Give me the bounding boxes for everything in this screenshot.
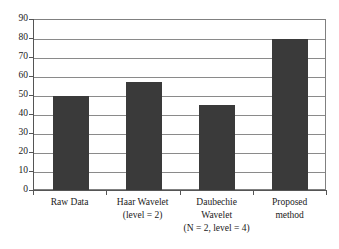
x-tick-mark-0 bbox=[33, 190, 34, 195]
y-tick-mark-40 bbox=[29, 114, 34, 115]
x-category-label-2-line-2: (N = 2, level = 4) bbox=[170, 222, 263, 235]
bar-chart: 0102030405060708090 Raw DataHaar Wavelet… bbox=[0, 0, 339, 249]
y-tick-label-20: 20 bbox=[19, 147, 29, 157]
x-tick-mark-3 bbox=[253, 190, 254, 195]
bars-layer bbox=[34, 20, 327, 191]
x-category-label-3-line-1: method bbox=[243, 209, 336, 222]
x-category-label-0-line-0: Raw Data bbox=[51, 197, 89, 207]
bar-3 bbox=[272, 39, 308, 191]
y-tick-label-50: 50 bbox=[19, 90, 29, 100]
x-tick-mark-4 bbox=[326, 190, 327, 195]
y-tick-label-80: 80 bbox=[19, 33, 29, 43]
y-tick-label-10: 10 bbox=[19, 166, 29, 176]
y-tick-mark-10 bbox=[29, 171, 34, 172]
x-category-label-3: Proposedmethod bbox=[243, 196, 336, 222]
x-category-label-1-line-0: Haar Wavelet bbox=[117, 197, 169, 207]
bar-2 bbox=[199, 105, 235, 191]
plot-area bbox=[33, 19, 326, 190]
y-tick-label-90: 90 bbox=[19, 14, 29, 24]
x-tick-mark-1 bbox=[106, 190, 107, 195]
y-tick-mark-60 bbox=[29, 76, 34, 77]
y-tick-label-60: 60 bbox=[19, 71, 29, 81]
x-tick-mark-2 bbox=[180, 190, 181, 195]
y-tick-mark-90 bbox=[29, 19, 34, 20]
y-axis-line bbox=[33, 19, 34, 191]
bar-0 bbox=[53, 96, 89, 191]
y-axis-tick-labels: 0102030405060708090 bbox=[0, 0, 28, 249]
y-tick-mark-50 bbox=[29, 95, 34, 96]
y-tick-label-30: 30 bbox=[19, 128, 29, 138]
y-tick-mark-80 bbox=[29, 38, 34, 39]
y-tick-mark-20 bbox=[29, 152, 34, 153]
y-tick-label-70: 70 bbox=[19, 52, 29, 62]
y-tick-mark-30 bbox=[29, 133, 34, 134]
x-category-label-3-line-0: Proposed bbox=[272, 197, 307, 207]
x-category-label-2-line-0: Daubechie bbox=[196, 197, 237, 207]
y-tick-mark-70 bbox=[29, 57, 34, 58]
y-tick-label-40: 40 bbox=[19, 109, 29, 119]
bar-1 bbox=[126, 82, 162, 191]
y-tick-label-0: 0 bbox=[23, 185, 28, 195]
